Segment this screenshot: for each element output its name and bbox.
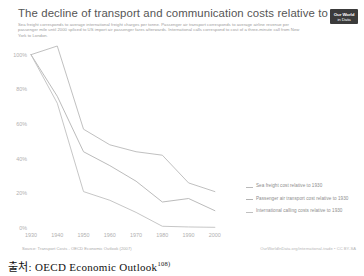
attribution-note[interactable]: OurWorldInData.org/international-trade •… xyxy=(260,246,356,251)
y-axis-tick-label: 40% xyxy=(16,156,27,162)
legend-item[interactable]: Passenger air transport cost relative to… xyxy=(246,196,362,202)
y-axis-tick-label: 60% xyxy=(16,121,27,127)
series-line xyxy=(31,55,215,211)
figure-caption: 출처: OECD Economic Outlook108) xyxy=(8,258,171,274)
legend-item-label: International calling costs relative to … xyxy=(256,208,342,214)
caption-text: 출처: OECD Economic Outlook xyxy=(8,261,157,273)
legend-item-label: Passenger air transport cost relative to… xyxy=(256,196,348,202)
our-world-in-data-logo[interactable]: Our World in Data xyxy=(330,9,358,24)
x-axis-tick-label: 1930 xyxy=(25,232,37,238)
legend-item[interactable]: Sea freight cost relative to 1930 xyxy=(246,183,362,189)
chart-series-lines xyxy=(31,46,215,227)
legend-color-swatch xyxy=(246,199,253,200)
x-axis-tick-label: 1980 xyxy=(156,232,168,238)
x-axis-tick-labels: 19301940195019601970198019902000 xyxy=(25,232,221,238)
legend-color-swatch xyxy=(246,187,253,188)
chart-card: The decline of transport and communicati… xyxy=(0,0,364,258)
legend-item-label: Sea freight cost relative to 1930 xyxy=(256,183,322,189)
chart-legend: Sea freight cost relative to 1930Passeng… xyxy=(246,183,362,221)
x-axis-tick-label: 1990 xyxy=(183,232,195,238)
legend-item[interactable]: International calling costs relative to … xyxy=(246,208,362,214)
logo-line-2: in Data xyxy=(337,17,350,22)
y-axis-tick-label: 20% xyxy=(16,190,27,196)
caption-footnote-mark: 108) xyxy=(157,260,170,267)
source-note: Source: Transport Costs - OECD Economic … xyxy=(22,246,132,251)
y-axis-tick-label: 80% xyxy=(16,86,27,92)
y-axis-tick-label: 100% xyxy=(13,52,27,58)
x-axis-tick-label: 1970 xyxy=(130,232,142,238)
x-axis-tick-label: 1940 xyxy=(51,232,63,238)
y-axis-tick-label: 0% xyxy=(19,225,27,231)
chart-header: The decline of transport and communicati… xyxy=(18,6,310,38)
x-axis-tick-label: 1950 xyxy=(78,232,90,238)
y-axis-tick-labels: 0%20%40%60%80%100% xyxy=(13,52,27,231)
x-axis-tick-label: 1960 xyxy=(104,232,116,238)
series-line xyxy=(31,55,215,228)
legend-color-swatch xyxy=(246,212,253,213)
series-line xyxy=(31,46,215,192)
x-axis-tick-label: 2000 xyxy=(209,232,221,238)
chart-subtitle: Sea freight corresponds to average inter… xyxy=(18,22,308,38)
chart-footer: Source: Transport Costs - OECD Economic … xyxy=(0,246,364,256)
chart-title: The decline of transport and communicati… xyxy=(18,6,310,20)
